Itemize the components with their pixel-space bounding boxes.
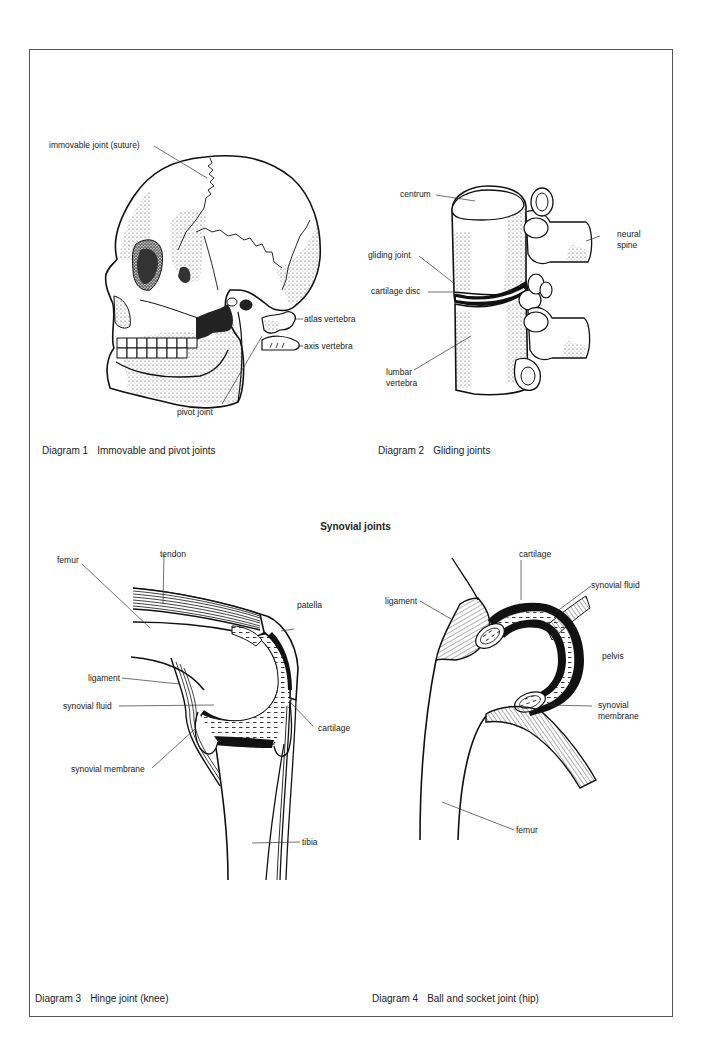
knee-drawing: [131, 588, 298, 880]
caption-diagram-1-number: Diagram 1: [42, 445, 88, 456]
label-pivot-joint: pivot joint: [177, 407, 213, 418]
label-pelvis: pelvis: [602, 651, 624, 662]
label-immovable-joint-suture: immovable joint (suture): [49, 140, 140, 151]
caption-diagram-2-title: Gliding joints: [433, 445, 490, 456]
caption-diagram-2-number: Diagram 2: [378, 445, 424, 456]
section-title-synovial-joints: Synovial joints: [0, 521, 711, 532]
label-axis-vertebra: axis vertebra: [304, 341, 353, 352]
caption-diagram-2: Diagram 2Gliding joints: [378, 445, 490, 456]
label-synovial-membrane-hip-line2: membrane: [598, 711, 639, 722]
caption-diagram-3: Diagram 3Hinge joint (knee): [35, 993, 169, 1004]
caption-diagram-3-title: Hinge joint (knee): [90, 993, 168, 1004]
label-ligament-knee: ligament: [88, 673, 120, 684]
caption-diagram-1: Diagram 1Immovable and pivot joints: [42, 445, 216, 456]
label-neural-spine-line1: neural: [617, 229, 641, 240]
label-lumbar-vertebra-line2: vertebra: [386, 378, 417, 389]
label-lumbar-vertebra-line1: lumbar: [386, 367, 412, 378]
label-synovial-membrane-hip-line1: synovial: [598, 700, 629, 711]
label-neural-spine-line2: spine: [617, 240, 637, 251]
label-ligament-hip: ligament: [385, 596, 417, 607]
caption-diagram-3-number: Diagram 3: [35, 993, 81, 1004]
label-cartilage-knee: cartilage: [318, 723, 350, 734]
label-atlas-vertebra: atlas vertebra: [304, 314, 356, 325]
label-cartilage-disc: cartilage disc: [371, 286, 421, 297]
skull-drawing: [106, 156, 321, 408]
label-gliding-joint: gliding joint: [368, 250, 411, 261]
caption-diagram-4-title: Ball and socket joint (hip): [427, 993, 539, 1004]
label-tendon: tendon: [160, 549, 186, 560]
caption-diagram-4: Diagram 4Ball and socket joint (hip): [372, 993, 539, 1004]
label-tibia: tibia: [302, 837, 318, 848]
hip-drawing: [420, 558, 596, 840]
label-synovial-membrane-knee: synovial membrane: [71, 764, 145, 775]
caption-diagram-1-title: Immovable and pivot joints: [97, 445, 215, 456]
vertebrae-drawing: [452, 186, 592, 395]
label-cartilage-hip: cartilage: [519, 549, 551, 560]
label-synovial-fluid-knee: synovial fluid: [63, 701, 112, 712]
label-patella: patella: [297, 600, 322, 611]
caption-diagram-4-number: Diagram 4: [372, 993, 418, 1004]
label-femur-hip: femur: [516, 825, 538, 836]
label-centrum: centrum: [400, 189, 431, 200]
label-femur-knee: femur: [57, 555, 79, 566]
label-synovial-fluid-hip: synovial fluid: [591, 580, 640, 591]
